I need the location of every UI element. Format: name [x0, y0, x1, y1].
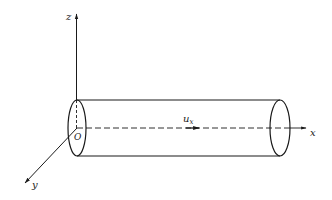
velocity-subscript: x	[189, 118, 193, 126]
origin-label: O	[74, 132, 82, 142]
z-axis-label: z	[65, 11, 72, 22]
x-axis-label: x	[310, 127, 316, 138]
cylinder-left-end-front	[68, 100, 77, 156]
y-axis-label: y	[31, 179, 38, 190]
y-axis	[25, 128, 77, 183]
velocity-label: ux	[183, 113, 193, 126]
cylinder-coordinate-diagram: z x y O ux	[0, 0, 332, 200]
